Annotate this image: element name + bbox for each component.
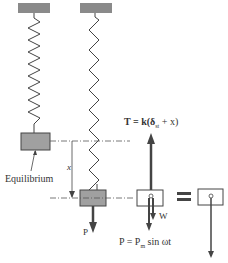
left-support [18,3,50,13]
x-dimension-arrowhead [69,191,75,198]
tension-arrowhead [147,133,155,144]
left-spring [28,18,40,124]
tension-label-main: T = k(δ [124,116,155,127]
equals-sign-bottom [177,198,191,201]
tension-label: T = k(δst + x) [124,117,178,129]
equilibrium-label: Equilibrium [5,174,53,184]
equals-sign-top [177,192,191,195]
kinetic-center-dot [209,194,213,198]
fbd-center-dot [149,194,153,198]
weight-label: W [159,212,168,221]
tension-label-end: + x) [159,116,178,127]
p-label: P [83,228,88,237]
equilibrium-pointer-head [33,150,37,155]
right-support [80,3,112,13]
x-label: x [67,163,71,172]
diagram-canvas [0,0,228,263]
force-eq-main: P = P [119,236,140,247]
fbd-p-arrowhead [146,223,152,231]
ma-arrowhead [208,251,214,258]
p-force-arrowhead [89,222,97,233]
weight-arrowhead [150,213,156,220]
left-mass [21,133,50,150]
right-spring [89,17,99,194]
force-eq-end: sin ωt [145,236,171,247]
force-equation-label: P = Pm sin ωt [119,237,171,249]
